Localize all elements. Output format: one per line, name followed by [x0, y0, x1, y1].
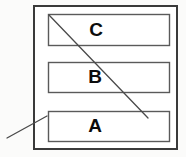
layer-box-a — [49, 112, 170, 142]
layer-label-b: B — [83, 67, 107, 86]
layer-label-a: A — [83, 116, 107, 135]
diagram-canvas: C B A — [0, 0, 186, 157]
layer-label-c: C — [84, 20, 108, 39]
layer-box-c — [49, 15, 170, 46]
